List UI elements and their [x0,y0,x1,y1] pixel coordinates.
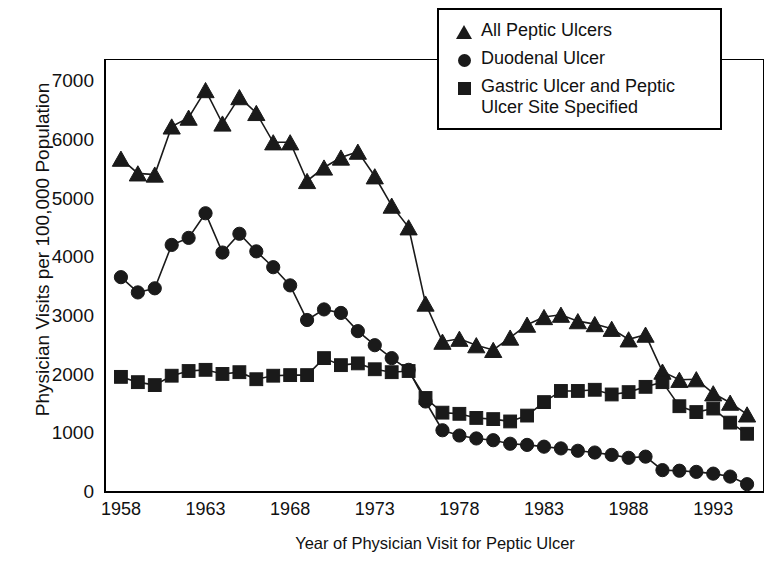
x-tick-label: 1978 [419,500,499,518]
y-tick-label: 4000 [0,247,94,266]
legend-item-duodenal-ulcer: Duodenal Ulcer [453,48,712,71]
x-tick-label: 1963 [166,500,246,518]
x-tick-label: 1968 [250,500,330,518]
chart-figure: Physician Visits per 100,000 Population … [0,0,766,564]
x-tick-label: 1993 [673,500,753,518]
chart-legend: All Peptic Ulcers Duodenal Ulcer Gastric… [437,8,722,130]
legend-label-duodenal-ulcer: Duodenal Ulcer [481,48,712,69]
y-tick-label: 5000 [0,189,94,208]
y-tick-label: 1000 [0,423,94,442]
square-marker-icon [453,77,475,99]
legend-label-gastric-ulcer-line2: Ulcer Site Specified [481,97,638,117]
x-tick-label: 1973 [335,500,415,518]
triangle-marker-icon [453,21,475,43]
legend-label-all-peptic-ulcers: All Peptic Ulcers [481,20,712,41]
y-tick-label: 3000 [0,306,94,325]
x-axis-title: Year of Physician Visit for Peptic Ulcer [104,534,766,553]
x-tick-label: 1988 [589,500,669,518]
legend-item-gastric-ulcer: Gastric Ulcer and Peptic Ulcer Site Spec… [453,76,712,118]
y-tick-label: 0 [0,482,94,501]
y-tick-label: 7000 [0,71,94,90]
y-tick-label: 2000 [0,365,94,384]
legend-label-gastric-ulcer: Gastric Ulcer and Peptic Ulcer Site Spec… [481,76,712,118]
x-tick-label: 1983 [504,500,584,518]
circle-marker-icon [453,49,475,71]
y-tick-label: 6000 [0,130,94,149]
legend-item-all-peptic-ulcers: All Peptic Ulcers [453,20,712,43]
legend-label-gastric-ulcer-line1: Gastric Ulcer and Peptic [481,76,675,96]
x-tick-label: 1958 [81,500,161,518]
